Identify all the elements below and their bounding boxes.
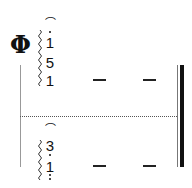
chord-note: 1 xyxy=(44,73,56,88)
low-octave-dot xyxy=(49,174,51,176)
chord-note: 1 xyxy=(44,35,56,50)
sustain-dash xyxy=(143,79,156,81)
chord-note: 1 xyxy=(44,159,56,174)
chord-note: 5 xyxy=(44,55,56,70)
fermata-icon: ⌒ xyxy=(44,18,56,29)
staff-separator xyxy=(20,116,177,117)
coda-sign: Φ xyxy=(10,33,31,57)
chord-note: 3 xyxy=(44,138,56,153)
low-octave-dot xyxy=(49,178,51,180)
arpeggio-icon xyxy=(37,30,43,88)
high-octave-dot xyxy=(49,31,51,33)
arpeggio-icon xyxy=(37,140,43,180)
sustain-dash xyxy=(93,165,106,167)
final-barline-thin xyxy=(177,65,178,167)
final-barline-thick xyxy=(180,65,184,167)
low-octave-dot xyxy=(49,154,51,156)
sustain-dash xyxy=(143,165,156,167)
sustain-dash xyxy=(93,79,106,81)
fermata-icon: ⌒ xyxy=(44,124,56,135)
